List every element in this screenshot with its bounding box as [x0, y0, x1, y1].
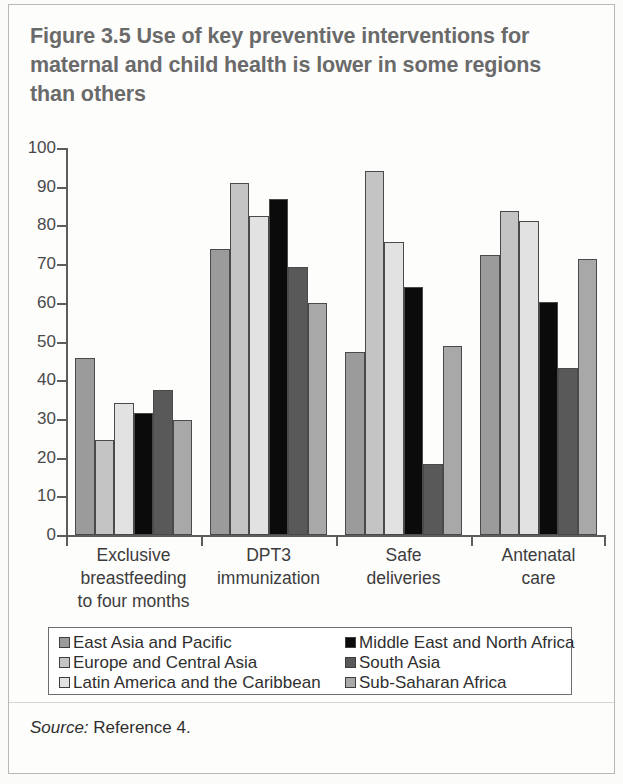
y-axis-tick — [57, 264, 66, 266]
figure-container: Figure 3.5 Use of key preventive interve… — [0, 0, 623, 784]
y-axis-tick-label: 50 — [10, 332, 56, 352]
source-note: Source: Reference 4. — [30, 718, 191, 738]
bar — [308, 303, 328, 535]
category-label-line: DPT3 — [201, 544, 336, 567]
bar — [210, 249, 230, 535]
legend-item-label: Middle East and North Africa — [359, 633, 574, 652]
y-axis-tick-label: 80 — [10, 215, 56, 235]
legend-item[interactable]: Europe and Central Asia — [59, 653, 349, 673]
category-label-line: deliveries — [336, 567, 471, 590]
bar — [173, 420, 193, 535]
category-label-line: Antenatal — [471, 544, 606, 567]
bar — [95, 440, 115, 535]
source-label: Source: — [30, 718, 89, 737]
bar — [578, 259, 598, 535]
y-axis-line — [66, 148, 68, 535]
y-axis-tick-label: 10 — [10, 486, 56, 506]
bar — [345, 352, 365, 535]
source-reference: Reference 4. — [89, 718, 191, 737]
x-axis-category-label: Antenatalcare — [471, 544, 606, 590]
bar — [153, 390, 173, 535]
category-label-line: Safe — [336, 544, 471, 567]
legend-item-label: Sub-Saharan Africa — [359, 673, 506, 692]
legend-swatch-icon — [345, 637, 356, 648]
category-label-line: to four months — [66, 590, 201, 613]
y-axis-tick — [57, 187, 66, 189]
bar — [288, 267, 308, 535]
bar — [269, 199, 289, 535]
bar — [384, 242, 404, 535]
bar — [404, 287, 424, 535]
y-axis-tick — [57, 148, 66, 150]
bar — [500, 211, 520, 535]
legend-item-label: South Asia — [359, 653, 440, 672]
category-label-line: care — [471, 567, 606, 590]
y-axis-tick — [57, 303, 66, 305]
legend-item-label: Latin America and the Caribbean — [73, 673, 321, 692]
category-label-line: breastfeeding — [66, 567, 201, 590]
legend-swatch-icon — [345, 657, 356, 668]
category-label-line: immunization — [201, 567, 336, 590]
y-axis-tick — [57, 458, 66, 460]
y-axis-tick-label: 20 — [10, 448, 56, 468]
bar — [423, 464, 443, 535]
y-axis-tick-label: 70 — [10, 254, 56, 274]
x-axis-category-label: Safedeliveries — [336, 544, 471, 590]
legend-item[interactable]: East Asia and Pacific — [59, 633, 349, 653]
legend-column-right: Middle East and North AfricaSouth AsiaSu… — [345, 633, 569, 693]
legend-item-label: East Asia and Pacific — [73, 633, 232, 652]
x-axis-category-labels: Exclusivebreastfeedingto four monthsDPT3… — [66, 544, 606, 620]
bar — [480, 255, 500, 535]
y-axis-tick — [57, 419, 66, 421]
y-axis-tick-label: 60 — [10, 293, 56, 313]
legend-item[interactable]: South Asia — [345, 653, 569, 673]
legend-item[interactable]: Middle East and North Africa — [345, 633, 569, 653]
x-axis-category-label: Exclusivebreastfeedingto four months — [66, 544, 201, 613]
y-axis-tick-label: 30 — [10, 409, 56, 429]
y-axis-tick-label: 100 — [10, 138, 56, 158]
y-axis-tick — [57, 496, 66, 498]
legend-swatch-icon — [59, 677, 70, 688]
bar — [75, 358, 95, 535]
legend-swatch-icon — [59, 637, 70, 648]
y-axis-tick-label: 90 — [10, 177, 56, 197]
y-axis-tick — [57, 225, 66, 227]
bar — [519, 221, 539, 535]
figure-title: Figure 3.5 Use of key preventive interve… — [30, 22, 590, 109]
bar — [249, 216, 269, 535]
legend-swatch-icon — [345, 677, 356, 688]
y-axis-tick-label: 40 — [10, 370, 56, 390]
y-axis-tick-label: 0 — [10, 525, 56, 545]
legend-swatch-icon — [59, 657, 70, 668]
legend-column-left: East Asia and PacificEurope and Central … — [59, 633, 349, 693]
chart-legend: East Asia and PacificEurope and Central … — [48, 627, 572, 695]
bar — [114, 403, 134, 535]
bar — [365, 171, 385, 535]
y-axis-labels: 0102030405060708090100 — [8, 148, 56, 535]
footer-divider — [9, 702, 614, 703]
legend-item[interactable]: Latin America and the Caribbean — [59, 673, 349, 693]
bar — [558, 368, 578, 535]
legend-item[interactable]: Sub-Saharan Africa — [345, 673, 569, 693]
bar — [539, 302, 559, 535]
legend-item-label: Europe and Central Asia — [73, 653, 257, 672]
y-axis-tick — [57, 342, 66, 344]
y-axis-tick — [57, 535, 66, 537]
chart-plot-area: 0102030405060708090100 — [66, 148, 606, 535]
x-axis-category-label: DPT3immunization — [201, 544, 336, 590]
bar — [230, 183, 250, 535]
bar — [443, 346, 463, 535]
y-axis-tick — [57, 380, 66, 382]
bar — [134, 413, 154, 535]
category-label-line: Exclusive — [66, 544, 201, 567]
